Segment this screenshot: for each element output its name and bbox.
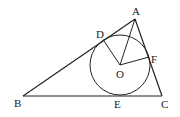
- label-o: O: [116, 68, 124, 80]
- label-c: C: [161, 98, 168, 110]
- label-f: F: [151, 53, 157, 65]
- segment-od: [104, 41, 120, 65]
- segment-of: [120, 57, 149, 65]
- segment-oa: [120, 19, 135, 65]
- label-e: E: [114, 98, 121, 110]
- label-a: A: [132, 5, 140, 17]
- label-d: D: [96, 28, 104, 40]
- side-ab: [23, 19, 135, 96]
- label-b: B: [14, 97, 21, 109]
- geometry-diagram: A B C D E F O: [0, 0, 180, 117]
